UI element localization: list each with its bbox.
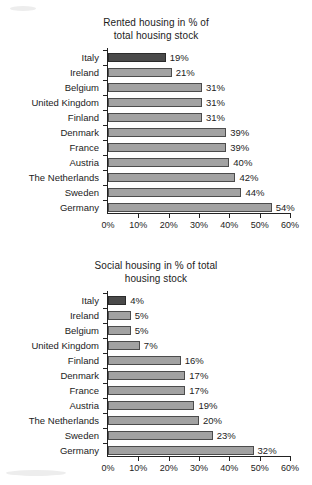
category-tick — [103, 140, 107, 141]
axis-tick-label: 10% — [129, 463, 147, 473]
bar-row: Finland16% — [0, 353, 312, 368]
axis-tick-label: 0% — [101, 463, 114, 473]
category-tick — [103, 293, 107, 294]
value-label-france: 17% — [189, 384, 208, 397]
category-tick — [103, 65, 107, 66]
value-label-finland: 31% — [206, 111, 225, 124]
value-label-italy: 4% — [130, 294, 144, 307]
bar-italy — [108, 296, 126, 305]
value-label-belgium: 5% — [135, 324, 149, 337]
bar-row: Sweden44% — [0, 185, 312, 200]
bar-sweden — [108, 431, 213, 440]
category-label-france: France — [69, 384, 99, 397]
bar-row: Denmark39% — [0, 125, 312, 140]
category-tick — [103, 368, 107, 369]
value-label-sweden: 44% — [245, 186, 264, 199]
bar-united-kingdom — [108, 341, 140, 350]
axis-tick — [169, 457, 170, 461]
axis-tick-label: 20% — [160, 220, 178, 230]
axis-tick — [260, 214, 261, 218]
value-label-belgium: 31% — [206, 81, 225, 94]
category-label-united-kingdom: United Kingdom — [31, 96, 99, 109]
value-label-united-kingdom: 7% — [144, 339, 158, 352]
value-label-ireland: 5% — [135, 309, 149, 322]
category-tick — [103, 125, 107, 126]
bar-denmark — [108, 128, 226, 137]
bar-finland — [108, 113, 202, 122]
plot-area-rented: Italy19%Ireland21%Belgium31%United Kingd… — [0, 48, 312, 226]
category-label-italy: Italy — [82, 51, 99, 64]
category-label-austria: Austria — [69, 399, 99, 412]
bar-sweden — [108, 188, 241, 197]
bar-germany — [108, 203, 272, 212]
axis-tick-label: 60% — [281, 220, 299, 230]
axis-tick-label: 40% — [220, 220, 238, 230]
bar-finland — [108, 356, 181, 365]
bar-row: Belgium5% — [0, 323, 312, 338]
plot-area-social: Italy4%Ireland5%Belgium5%United Kingdom7… — [0, 291, 312, 469]
bar-row: Ireland21% — [0, 65, 312, 80]
bar-row: United Kingdom31% — [0, 95, 312, 110]
bar-row: United Kingdom7% — [0, 338, 312, 353]
category-label-belgium: Belgium — [65, 324, 99, 337]
category-label-denmark: Denmark — [60, 126, 99, 139]
bar-row: Ireland5% — [0, 308, 312, 323]
axis-tick-label: 50% — [251, 220, 269, 230]
bar-row: Finland31% — [0, 110, 312, 125]
bar-belgium — [108, 83, 202, 92]
bar-the-netherlands — [108, 416, 199, 425]
value-label-austria: 19% — [198, 399, 217, 412]
axis-tick — [229, 214, 230, 218]
category-tick — [103, 353, 107, 354]
chart-title-line-2: housing stock — [0, 273, 312, 286]
bar-germany — [108, 446, 254, 455]
value-label-italy: 19% — [170, 51, 189, 64]
bar-belgium — [108, 326, 131, 335]
axis-tick — [138, 214, 139, 218]
chart-rented-housing: Rented housing in % of total housing sto… — [0, 0, 312, 245]
value-label-denmark: 17% — [189, 369, 208, 382]
scan-artifact — [10, 6, 36, 11]
chart-title-line-1: Rented housing in % of — [103, 17, 209, 28]
axis-tick — [138, 457, 139, 461]
category-tick — [103, 338, 107, 339]
bar-the-netherlands — [108, 173, 235, 182]
bar-united-kingdom — [108, 98, 202, 107]
bar-row: Italy19% — [0, 50, 312, 65]
bar-ireland — [108, 311, 131, 320]
axis-tick-label: 50% — [251, 463, 269, 473]
category-label-ireland: Ireland — [70, 66, 99, 79]
chart-title-line-1: Social housing in % of total — [95, 260, 218, 271]
category-label-france: France — [69, 141, 99, 154]
axis-tick-label: 10% — [129, 220, 147, 230]
category-tick — [103, 308, 107, 309]
category-tick — [103, 383, 107, 384]
value-label-ireland: 21% — [176, 66, 195, 79]
axis-tick-label: 0% — [101, 220, 114, 230]
axis-tick-label: 30% — [190, 220, 208, 230]
value-label-austria: 40% — [233, 156, 252, 169]
bar-row: The Netherlands20% — [0, 413, 312, 428]
bar-row: Denmark17% — [0, 368, 312, 383]
bar-row: Austria40% — [0, 155, 312, 170]
value-label-united-kingdom: 31% — [206, 96, 225, 109]
axis-tick — [290, 457, 291, 461]
bar-row: Germany32% — [0, 443, 312, 458]
axis-tick-label: 20% — [160, 463, 178, 473]
chart-social-housing: Social housing in % of total housing sto… — [0, 243, 312, 485]
category-label-sweden: Sweden — [65, 429, 99, 442]
chart-title-rented: Rented housing in % of total housing sto… — [0, 0, 312, 42]
bar-italy — [108, 53, 166, 62]
bar-austria — [108, 401, 194, 410]
bar-france — [108, 386, 185, 395]
value-label-germany: 32% — [258, 444, 277, 457]
category-tick — [103, 170, 107, 171]
bar-row: Germany54% — [0, 200, 312, 215]
axis-tick-label: 40% — [220, 463, 238, 473]
category-label-germany: Germany — [60, 201, 99, 214]
category-label-denmark: Denmark — [60, 369, 99, 382]
value-label-finland: 16% — [185, 354, 204, 367]
bar-row: France39% — [0, 140, 312, 155]
category-label-the-netherlands: The Netherlands — [29, 414, 99, 427]
axis-tick-label: 60% — [281, 463, 299, 473]
